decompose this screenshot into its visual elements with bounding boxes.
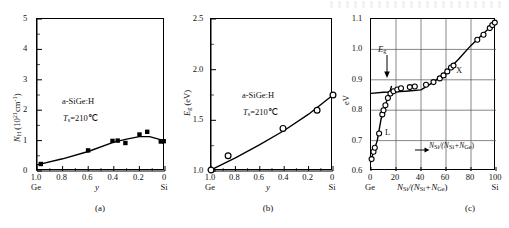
inplot-arrow-c — [415, 147, 430, 152]
xtick-c-1: 20 — [385, 172, 405, 182]
panel-b: 1.0 1.5 2.0 2.5 Eg (eV) 1.0 0.8 0.6 0.4 … — [170, 0, 340, 228]
panel-caption-a: (a) — [80, 203, 120, 213]
ytick-c-1: 0.7 — [345, 135, 369, 145]
data-markers-a — [39, 130, 166, 167]
eg-arrow-c — [384, 55, 390, 78]
panel-caption-b: (b) — [248, 203, 288, 213]
annotation-b-temperature: Ts=210℃ — [243, 107, 278, 117]
annot-b-t-value: =210℃ — [250, 107, 278, 117]
ytick-a-3: 3 — [18, 74, 32, 84]
yaxis-a-exp2: -1 — [11, 96, 18, 101]
yaxis-title-c: eV — [341, 95, 351, 105]
xaxis-a-left-species: Ge — [26, 182, 46, 192]
inplot-c-plus: +N — [454, 141, 464, 150]
yaxis-title-a: NH (1021cm-1) — [11, 94, 22, 142]
yaxis-a-exp: 21 — [11, 112, 18, 118]
xtick-b-0: 1.0 — [200, 172, 220, 182]
xtick-a-3: 0.4 — [103, 172, 123, 182]
inplot-c-mid: /(N — [439, 141, 449, 150]
xtick-a-4: 0.2 — [128, 172, 148, 182]
annotation-c-branch-x: X — [456, 65, 462, 75]
fit-curve-a — [37, 137, 165, 165]
annotation-a-temperature: Ts=210℃ — [63, 113, 98, 123]
annotation-c-eg: Eg — [378, 44, 386, 54]
xtick-a-2: 0.6 — [77, 172, 97, 182]
inplot-c-end: ) — [472, 141, 475, 150]
xaxis-c-mid: /(N — [408, 182, 420, 192]
ytick-c-5: 1.1 — [345, 13, 369, 23]
xtick-c-0: 0 — [360, 172, 380, 182]
data-markers-b — [208, 92, 336, 173]
yaxis-a-sub: H — [15, 132, 22, 137]
ytick-b-2: 2.0 — [188, 64, 208, 74]
annot-a-t-value: =210℃ — [70, 113, 98, 123]
xaxis-c-end: ) — [444, 182, 447, 192]
panel-c: 0.6 0.7 0.8 0.9 1.0 1.1 eV 0 20 40 60 80… — [340, 0, 509, 228]
annotation-b-material: a-SiGe:H — [242, 90, 274, 100]
xtick-a-0: 1.0 — [26, 172, 46, 182]
xtick-b-5: 0 — [322, 172, 342, 182]
yaxis-a-unit-post: cm — [12, 102, 22, 112]
yaxis-b-sub: g — [185, 108, 192, 111]
ytick-a-5: 5 — [18, 13, 32, 23]
plot-svg-a — [37, 19, 165, 171]
xtick-a-1: 0.8 — [52, 172, 72, 182]
plot-area-a — [36, 18, 164, 170]
xtick-c-4: 80 — [460, 172, 480, 182]
annotation-c-branch-l: L — [385, 127, 390, 137]
yaxis-title-b: Eg (eV) — [182, 90, 192, 116]
yaxis-a-unit-end: ) — [12, 94, 22, 97]
xtick-c-5: 100 — [485, 172, 505, 182]
xtick-c-3: 60 — [435, 172, 455, 182]
xaxis-c-left-species: Ge — [360, 182, 380, 192]
ytick-c-2: 0.8 — [345, 104, 369, 114]
xaxis-title-c: NSi/(NSi+NGe) — [397, 182, 447, 192]
xaxis-title-a: y — [95, 182, 99, 192]
yaxis-b-unit: (eV) — [182, 90, 192, 108]
xtick-b-4: 0.2 — [298, 172, 318, 182]
ytick-c-4: 1.0 — [345, 43, 369, 53]
inplot-c-sub3: Ge — [464, 143, 471, 150]
annot-c-eg-sub: g — [383, 47, 386, 54]
panel-caption-c: (c) — [450, 203, 490, 213]
yaxis-a-symbol: N — [12, 136, 22, 142]
panel-a: 0 1 2 3 4 5 NH (1021cm-1) 1.0 0.8 0.6 0.… — [0, 0, 170, 228]
xaxis-c-right-species: Si — [485, 182, 505, 192]
xaxis-b-left-species: Ge — [200, 182, 220, 192]
ytick-a-4: 4 — [18, 43, 32, 53]
yaxis-b-symbol: E — [182, 111, 192, 116]
xtick-b-3: 0.4 — [273, 172, 293, 182]
xaxis-title-b: y — [266, 182, 270, 192]
xtick-b-1: 0.8 — [224, 172, 244, 182]
ytick-b-3: 2.5 — [188, 13, 208, 23]
inplot-xlabel-c: NSi/(NSi+NGe) — [429, 141, 474, 150]
xaxis-c-plus: +N — [425, 182, 437, 192]
ytick-c-3: 0.9 — [345, 74, 369, 84]
annotation-a-material: a-SiGe:H — [62, 96, 94, 106]
yaxis-a-unit-pre: (10 — [12, 118, 22, 131]
xtick-b-2: 0.6 — [249, 172, 269, 182]
xtick-c-2: 40 — [410, 172, 430, 182]
xaxis-b-right-species: Si — [322, 182, 342, 192]
